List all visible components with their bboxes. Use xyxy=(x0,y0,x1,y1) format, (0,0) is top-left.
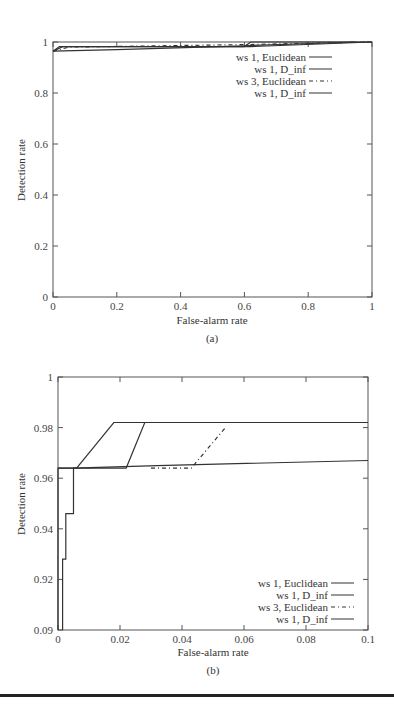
y-axis-label-a: Detection rate xyxy=(15,139,27,201)
y-tick-label: 0.6 xyxy=(34,138,48,150)
legend-entry: ws 1, D_inf xyxy=(276,613,328,625)
legend-a: ws 1, Euclideanws 1, D_infws 3, Euclidea… xyxy=(236,51,332,99)
series-lines-a xyxy=(53,42,372,51)
legend-entry: ws 3, Euclidean xyxy=(236,75,306,87)
legend-entry: ws 1, Euclidean xyxy=(236,51,306,63)
x-axis-label-a: False-alarm rate xyxy=(176,314,247,326)
x-tick-label: 0.02 xyxy=(110,633,129,645)
bottom-rule xyxy=(0,694,394,697)
legend-entry: ws 1, D_inf xyxy=(254,63,306,75)
x-tick-label: 1 xyxy=(369,300,375,312)
y-axis-label-b: Detection rate xyxy=(15,473,27,535)
y-tick-label: 0.94 xyxy=(34,523,54,535)
legend-entry: ws 3, Euclidean xyxy=(258,601,328,613)
chart-a: 00.20.40.60.81 00.20.40.60.81 False-alar… xyxy=(15,36,375,345)
y-tick-label: 0.98 xyxy=(34,422,54,434)
y-tick-label: 0.96 xyxy=(34,472,54,484)
x-tick-label: 0.1 xyxy=(361,633,375,645)
y-tick-label: 0.09 xyxy=(34,624,54,636)
figure: 00.20.40.60.81 00.20.40.60.81 False-alar… xyxy=(0,0,394,706)
plot-area-a xyxy=(53,42,372,297)
x-tick-label: 0.6 xyxy=(238,300,252,312)
x-ticks-a: 00.20.40.60.81 xyxy=(50,42,375,312)
x-tick-label: 0.4 xyxy=(174,300,188,312)
series-line xyxy=(151,428,225,469)
x-tick-label: 0 xyxy=(50,300,56,312)
caption-a: (a) xyxy=(206,332,219,345)
y-tick-label: 0 xyxy=(43,291,49,303)
legend-entry: ws 1, Euclidean xyxy=(258,577,328,589)
legend-entry: ws 1, D_inf xyxy=(276,589,328,601)
legend-entry: ws 1, D_inf xyxy=(254,87,306,99)
x-tick-label: 0.06 xyxy=(234,633,254,645)
y-tick-label: 0.8 xyxy=(34,87,48,99)
x-tick-label: 0.8 xyxy=(301,300,315,312)
x-tick-label: 0.2 xyxy=(110,300,124,312)
y-tick-label: 1 xyxy=(43,36,49,48)
y-tick-label: 0.2 xyxy=(34,240,48,252)
x-tick-label: 0 xyxy=(55,633,61,645)
x-axis-label-b: False-alarm rate xyxy=(177,646,248,658)
chart-b: 00.020.040.060.080.1 0.090.920.940.960.9… xyxy=(15,371,375,677)
legend-b: ws 1, Euclideanws 1, D_infws 3, Euclidea… xyxy=(258,577,354,625)
x-tick-label: 0.04 xyxy=(172,633,192,645)
y-tick-label: 0.4 xyxy=(34,189,48,201)
caption-b: (b) xyxy=(207,664,220,677)
y-tick-label: 0.92 xyxy=(34,573,53,585)
y-tick-label: 1 xyxy=(48,371,54,383)
x-tick-label: 0.08 xyxy=(296,633,316,645)
y-ticks-a: 00.20.40.60.81 xyxy=(34,36,372,303)
